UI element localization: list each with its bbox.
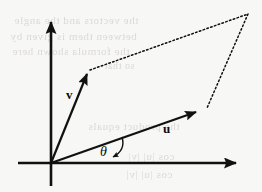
parallelogram-side-sum-to-u <box>207 14 248 108</box>
vector-v-label: v <box>66 88 73 101</box>
vector-figure: the vectors and the angle between them i… <box>0 0 262 192</box>
vector-u <box>51 112 196 163</box>
angle-theta-label: θ <box>100 145 107 159</box>
figure-canvas <box>0 0 262 192</box>
vector-u-label: u <box>163 122 170 135</box>
parallelogram-side-v-to-sum <box>90 14 248 70</box>
